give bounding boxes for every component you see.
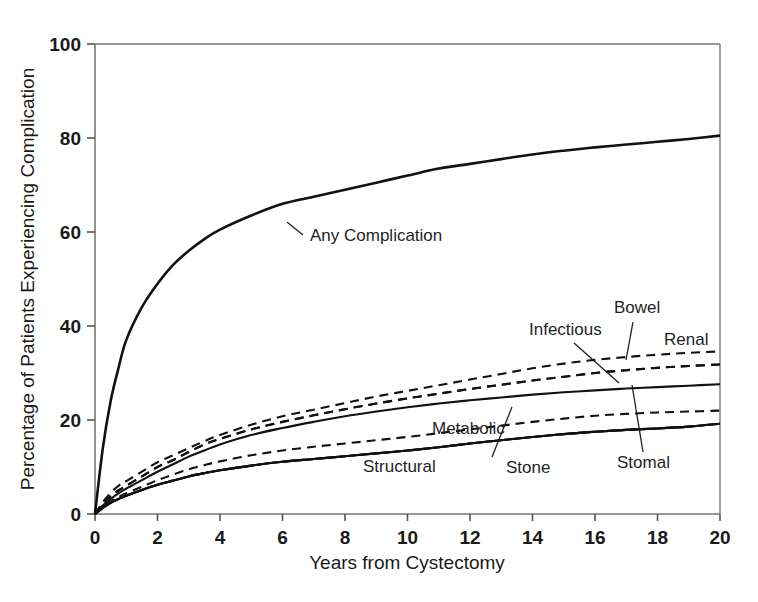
x-tick-label-0: 0 bbox=[90, 527, 101, 548]
label-bowel: Bowel bbox=[614, 298, 660, 317]
x-tick-label-18: 18 bbox=[647, 527, 668, 548]
y-tick-label-0: 0 bbox=[70, 504, 81, 525]
label-structural: Structural bbox=[363, 457, 436, 476]
y-tick-label-80: 80 bbox=[60, 128, 81, 149]
x-tick-label-8: 8 bbox=[340, 527, 351, 548]
y-axis-title: Percentage of Patients Experiencing Comp… bbox=[17, 68, 38, 490]
x-tick-label-10: 10 bbox=[397, 527, 418, 548]
y-tick-label-60: 60 bbox=[60, 222, 81, 243]
y-tick-label-100: 100 bbox=[49, 34, 81, 55]
x-tick-label-4: 4 bbox=[215, 527, 226, 548]
x-tick-label-14: 14 bbox=[522, 527, 544, 548]
complication-curves-chart: 02468101214161820 020406080100 Any Compl… bbox=[0, 0, 758, 602]
x-tick-label-16: 16 bbox=[584, 527, 605, 548]
label-any-complication: Any Complication bbox=[310, 226, 442, 245]
x-tick-label-6: 6 bbox=[277, 527, 288, 548]
x-tick-label-2: 2 bbox=[152, 527, 163, 548]
y-tick-label-40: 40 bbox=[60, 316, 81, 337]
x-axis-title: Years from Cystectomy bbox=[309, 552, 505, 573]
label-renal: Renal bbox=[664, 330, 708, 349]
y-tick-label-20: 20 bbox=[60, 410, 81, 431]
label-metabolic: Metabolic bbox=[432, 419, 505, 438]
label-stone: Stone bbox=[506, 458, 550, 477]
x-tick-label-20: 20 bbox=[709, 527, 730, 548]
figure-container: 02468101214161820 020406080100 Any Compl… bbox=[0, 0, 758, 602]
label-infectious: Infectious bbox=[529, 320, 602, 339]
label-stomal: Stomal bbox=[617, 453, 670, 472]
x-tick-label-12: 12 bbox=[459, 527, 480, 548]
